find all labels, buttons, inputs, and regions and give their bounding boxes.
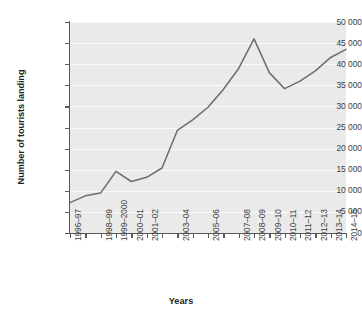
x-axis-tick (131, 234, 132, 238)
x-axis-tick-label: 2009–10 (273, 209, 283, 241)
x-axis-tick-label: 1996–97 (73, 209, 83, 241)
y-axis-spine (69, 21, 70, 234)
x-axis-tick (269, 234, 270, 238)
x-axis-tick (346, 234, 347, 238)
y-axis-tick-label: 50 000 (300, 17, 362, 27)
figure-caption (18, 311, 348, 318)
x-axis-tick (177, 234, 178, 238)
x-axis-tick (208, 234, 209, 238)
x-axis-tick (331, 234, 332, 238)
y-axis-tick-label: 15 000 (300, 164, 362, 174)
y-axis-tick (65, 233, 69, 234)
x-axis-tick-label: 2014–15 (349, 209, 359, 241)
x-axis-tick (116, 234, 117, 238)
x-axis-tick-label: 2003–04 (181, 209, 191, 241)
y-axis-tick-label: 20 000 (300, 143, 362, 153)
x-axis-tick (85, 234, 86, 238)
y-axis-title: Number of tourists landing (16, 42, 26, 212)
x-axis-tick (239, 234, 240, 238)
x-axis-tick (315, 234, 316, 238)
x-axis-tick-label: 2013–14 (334, 209, 344, 241)
x-axis-tick-label: 2010–11 (288, 210, 298, 241)
x-axis-tick-label: 2000–01 (135, 209, 145, 241)
x-axis-tick-label: 2011–12 (303, 210, 313, 241)
x-axis-tick (223, 234, 224, 238)
chart-figure: Number of tourists landing 05 00010 0001… (0, 0, 362, 318)
y-axis-tick-label: 40 000 (300, 59, 362, 69)
x-axis-tick-label: 1999–2000 (119, 200, 129, 241)
y-axis-tick (65, 191, 69, 192)
y-axis-tick (65, 22, 69, 23)
y-axis-tick (65, 43, 69, 44)
x-axis-tick-label: 2008–09 (257, 209, 267, 241)
y-axis-tick-label: 10 000 (300, 185, 362, 195)
x-axis-title: Years (0, 296, 362, 306)
y-axis-tick (65, 170, 69, 171)
x-axis-tick-label: 1998–99 (104, 209, 114, 241)
y-axis-tick-label: 35 000 (300, 80, 362, 90)
y-axis-tick (65, 85, 69, 86)
x-axis-tick (285, 234, 286, 238)
x-axis-tick-label: 2012–13 (319, 209, 329, 241)
x-axis-tick (162, 234, 163, 238)
x-axis-tick-label: 2007–08 (242, 209, 252, 241)
y-axis-tick (65, 128, 69, 129)
y-axis-tick (65, 149, 69, 150)
y-axis-tick-label: 45 000 (300, 38, 362, 48)
x-axis-tick-label: 2001–02 (150, 209, 160, 241)
x-axis-tick (101, 234, 102, 238)
y-axis-tick (65, 212, 69, 213)
y-axis-tick-label: 30 000 (300, 101, 362, 111)
x-axis-tick (193, 234, 194, 238)
x-axis-tick (254, 234, 255, 238)
x-axis-tick (70, 234, 71, 238)
y-axis-tick (65, 106, 69, 107)
y-axis-tick-label: 25 000 (300, 122, 362, 132)
x-axis-tick (300, 234, 301, 238)
y-axis-tick (65, 64, 69, 65)
x-axis-tick-label: 2005–06 (211, 209, 221, 241)
x-axis-tick (147, 234, 148, 238)
